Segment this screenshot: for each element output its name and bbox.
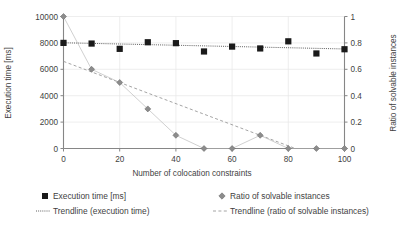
legend-item-label: Trendline (ratio of solvable instances): [230, 206, 369, 216]
legend-item: Trendline (execution time): [36, 206, 150, 216]
chart-container: 0200040006000800010000 00.20.40.60.81 02…: [0, 0, 404, 226]
y-axis-tick-label: 2000: [40, 118, 59, 127]
y-axis-tick-label: 4000: [40, 92, 59, 101]
data-point-square: [60, 40, 66, 46]
legend-item: Execution time [ms]: [42, 191, 126, 201]
data-point-square: [257, 45, 263, 51]
y2-axis-tick-label: 1: [351, 13, 356, 22]
dual-axis-scatter-chart: 0200040006000800010000 00.20.40.60.81 02…: [0, 0, 404, 226]
y-axis-tick-label: 0: [53, 145, 58, 154]
data-point-square: [229, 43, 235, 49]
legend-item-label: Trendline (execution time): [53, 206, 150, 216]
data-point-square: [201, 48, 207, 54]
x-axis-title: Number of colocation constraints: [132, 169, 251, 178]
x-axis-tick-label: 40: [171, 155, 181, 164]
legend-square-marker: [42, 193, 48, 199]
data-point-square: [117, 46, 123, 52]
data-point-square: [145, 39, 151, 45]
data-point-square: [173, 40, 179, 46]
y2-axis-tick-label: 0.6: [351, 65, 363, 74]
data-point-square: [313, 50, 319, 56]
x-axis-tick-label: 100: [338, 155, 352, 164]
y2-axis-tick-label: 0.2: [351, 118, 363, 127]
y-axis-tick-label: 6000: [40, 65, 59, 74]
legend-item-label: Ratio of solvable instances: [230, 191, 330, 201]
y-axis-tick-label: 10000: [35, 13, 58, 22]
data-point-square: [285, 38, 291, 44]
x-axis-tick-label: 60: [228, 155, 238, 164]
y2-axis-tick-label: 0: [351, 145, 356, 154]
data-point-square: [89, 40, 95, 46]
x-axis-tick-label: 80: [284, 155, 294, 164]
data-point-square: [341, 46, 347, 52]
y-axis-tick-label: 8000: [40, 39, 59, 48]
legend-item: Ratio of solvable instances: [219, 191, 330, 201]
x-axis-tick-label: 20: [115, 155, 125, 164]
y-axis-title: Execution time [ms]: [4, 47, 13, 118]
legend-item-label: Execution time [ms]: [53, 191, 126, 201]
y2-axis-tick-label: 0.8: [351, 39, 363, 48]
legend-item: Trendline (ratio of solvable instances): [213, 206, 369, 216]
x-axis-tick-label: 0: [61, 155, 66, 164]
y2-axis-title: Ratio of solvable instances: [389, 34, 398, 131]
y2-axis-tick-label: 0.4: [351, 92, 363, 101]
